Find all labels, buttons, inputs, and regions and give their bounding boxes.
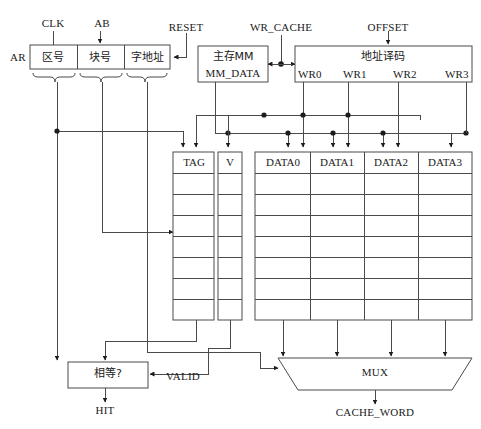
- decoder-output-wr1: WR1: [343, 69, 367, 80]
- valid-table-grid: [218, 152, 242, 320]
- data-to-mux-lines: [283, 320, 445, 356]
- diagram-wiring-canvas: [0, 0, 481, 429]
- tag-table-header: TAG: [183, 157, 205, 168]
- main-memory-data-port: MM_DATA: [206, 68, 261, 79]
- ar-field-block: 块号: [89, 52, 111, 63]
- data-table-header-2: DATA2: [374, 157, 408, 168]
- cache-word-output-label: CACHE_WORD: [336, 407, 414, 418]
- hit-output-label: HIT: [96, 405, 115, 416]
- comparator-label: 相等?: [94, 368, 122, 379]
- label-reset: RESET: [169, 22, 204, 33]
- label-wr-cache: WR_CACHE: [250, 22, 312, 33]
- mux-label: MUX: [362, 367, 388, 378]
- data-table-header-0: DATA0: [266, 157, 300, 168]
- cache-architecture-diagram: CLK AB RESET WR_CACHE OFFSET AR 区号 块号 字地…: [0, 0, 481, 429]
- ar-field-word: 字地址: [131, 52, 164, 63]
- main-memory-title: 主存MM: [213, 51, 254, 62]
- address-decoder-title: 地址译码: [361, 51, 405, 62]
- label-ar: AR: [10, 52, 26, 63]
- valid-table-header: V: [226, 157, 234, 168]
- decoder-output-wr2: WR2: [393, 69, 417, 80]
- decoder-output-wr0: WR0: [298, 69, 322, 80]
- mm-data-feed-lines: [288, 133, 451, 147]
- tag-table-grid: [173, 152, 214, 320]
- ar-field-braces: [33, 73, 167, 82]
- data-table-grid: [255, 152, 472, 320]
- ar-field-zone: 区号: [42, 52, 64, 63]
- data-table-header-1: DATA1: [320, 157, 354, 168]
- label-offset: OFFSET: [368, 22, 409, 33]
- label-clk: CLK: [42, 18, 65, 29]
- valid-signal-label: VALID: [166, 371, 200, 382]
- decoder-output-wr3: WR3: [445, 69, 469, 80]
- label-ab: AB: [94, 18, 110, 29]
- data-table-header-3: DATA3: [428, 157, 462, 168]
